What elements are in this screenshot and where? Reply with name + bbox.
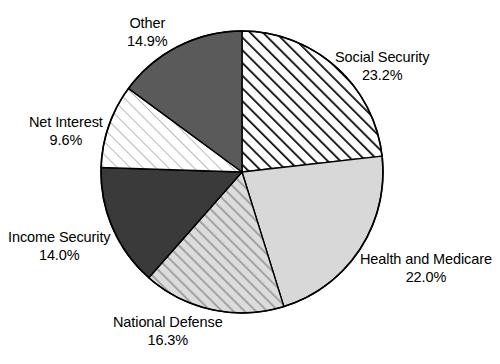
pie-label-national-defense: National Defense 16.3% (113, 313, 223, 349)
pie-label-other-value: 14.9% (127, 32, 168, 50)
pie-label-health-and-medicare: Health and Medicare 22.0% (360, 250, 492, 286)
pie-label-national-defense-name: National Defense (113, 313, 223, 331)
pie-label-income-security-value: 14.0% (8, 246, 110, 264)
pie-label-net-interest: Net Interest 9.6% (29, 113, 103, 149)
pie-label-social-security: Social Security 23.2% (335, 48, 429, 84)
pie-label-income-security: Income Security 14.0% (8, 228, 110, 264)
pie-label-social-security-value: 23.2% (335, 66, 429, 84)
pie-chart: Social Security 23.2% Health and Medicar… (0, 0, 500, 364)
pie-label-other: Other 14.9% (127, 14, 168, 50)
pie-label-national-defense-value: 16.3% (113, 331, 223, 349)
pie-label-health-and-medicare-value: 22.0% (360, 268, 492, 286)
pie-label-income-security-name: Income Security (8, 228, 110, 246)
pie-label-health-and-medicare-name: Health and Medicare (360, 250, 492, 268)
pie-label-social-security-name: Social Security (335, 48, 429, 66)
pie-label-other-name: Other (127, 14, 168, 32)
pie-label-net-interest-value: 9.6% (29, 131, 103, 149)
pie-label-net-interest-name: Net Interest (29, 113, 103, 131)
